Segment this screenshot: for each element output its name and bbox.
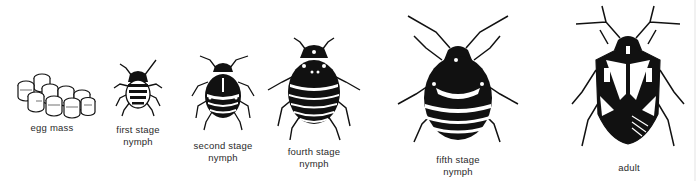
- second-nymph-illustration: [188, 52, 258, 132]
- fifth-nymph-illustration: [396, 12, 520, 152]
- egg-mass-illustration: [12, 68, 102, 128]
- caption-adult: adult: [604, 162, 654, 174]
- caption-first-nymph: first stage nymph: [108, 124, 168, 148]
- caption-fourth-nymph: fourth stage nymph: [274, 146, 354, 170]
- first-nymph-illustration: [108, 58, 168, 118]
- adult-illustration: [566, 4, 690, 154]
- caption-fifth-nymph: fifth stage nymph: [418, 154, 498, 178]
- caption-second-nymph: second stage nymph: [188, 140, 258, 164]
- fourth-nymph-illustration: [264, 36, 364, 144]
- caption-egg-mass: egg mass: [22, 122, 82, 134]
